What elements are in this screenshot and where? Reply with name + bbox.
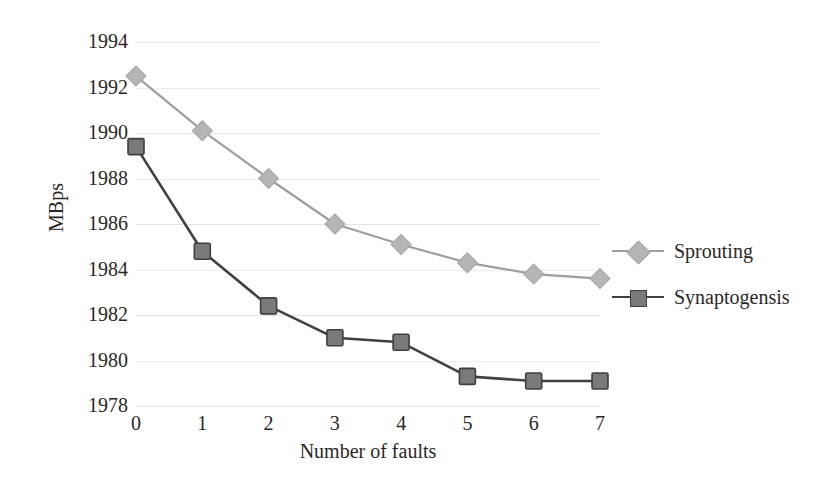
square-marker <box>261 298 277 314</box>
square-marker <box>194 243 210 259</box>
legend-label: Synaptogensis <box>674 286 790 308</box>
diamond-marker <box>391 235 411 255</box>
diamond-marker <box>458 253 478 273</box>
legend-label: Sprouting <box>674 240 753 262</box>
x-axis-tick-label: 3 <box>315 412 355 434</box>
chart-figure: MBps 19941992199019881986198419821980197… <box>0 0 829 489</box>
diamond-marker <box>259 169 279 189</box>
diamond-marker <box>590 269 610 289</box>
legend-swatch <box>612 241 664 261</box>
x-axis-tick-label: 5 <box>447 412 487 434</box>
diamond-marker <box>626 240 650 264</box>
chart-legend: SproutingSynaptogensis <box>612 228 822 320</box>
x-axis-tick-label: 6 <box>514 412 554 434</box>
series-synaptogensis <box>128 139 608 389</box>
x-axis-title: Number of faults <box>136 440 600 463</box>
legend-swatch <box>612 287 664 307</box>
square-marker <box>327 330 343 346</box>
square-marker <box>128 139 144 155</box>
legend-item[interactable]: Synaptogensis <box>612 274 822 320</box>
x-axis-tick-labels: 01234567 <box>0 412 829 442</box>
x-axis-tick-label: 0 <box>116 412 156 434</box>
square-marker <box>592 373 608 389</box>
diamond-marker <box>524 264 544 284</box>
square-marker <box>630 290 647 307</box>
x-axis-tick-label: 7 <box>580 412 620 434</box>
x-axis-tick-label: 1 <box>182 412 222 434</box>
square-marker <box>393 334 409 350</box>
x-axis-tick-label: 4 <box>381 412 421 434</box>
diamond-marker <box>325 214 345 234</box>
x-axis-tick-label: 2 <box>249 412 289 434</box>
legend-item[interactable]: Sprouting <box>612 228 822 274</box>
square-marker <box>459 368 475 384</box>
square-marker <box>526 373 542 389</box>
series-line <box>136 147 600 381</box>
